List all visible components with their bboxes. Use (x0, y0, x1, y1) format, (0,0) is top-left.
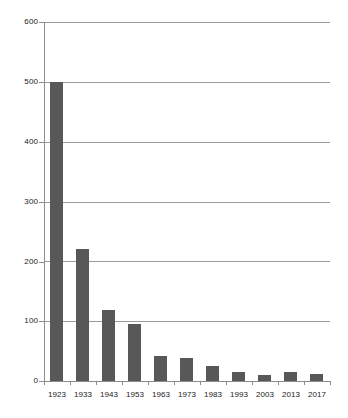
bar-chart-figure: 600 500 400 300 200 100 0 (0, 0, 348, 418)
bar-2003 (258, 375, 271, 381)
bar-1923 (50, 82, 63, 381)
y-tick-label-500: 500 (24, 78, 38, 86)
x-tick-label-1943: 1943 (96, 390, 122, 399)
x-tick-mark-9 (278, 381, 279, 385)
x-tick-mark-6 (200, 381, 201, 385)
x-tick-mark-7 (226, 381, 227, 385)
x-tick-label-1933: 1933 (70, 390, 96, 399)
y-tick-label-400: 400 (24, 138, 38, 146)
gridline-400 (44, 142, 330, 143)
x-tick-label-1953: 1953 (122, 390, 148, 399)
x-tick-label-1963: 1963 (148, 390, 174, 399)
gridline-baseline-0 (44, 381, 330, 382)
bar-1943 (102, 310, 115, 381)
x-tick-mark-5 (174, 381, 175, 385)
bar-2013 (284, 372, 297, 381)
x-tick-label-1923: 1923 (44, 390, 70, 399)
x-tick-label-2017: 2017 (304, 390, 330, 399)
x-tick-mark-4 (148, 381, 149, 385)
x-tick-label-1983: 1983 (200, 390, 226, 399)
x-tick-mark-1 (70, 381, 71, 385)
gridline-300 (44, 202, 330, 203)
bar-1953 (128, 324, 141, 381)
bar-1983 (206, 366, 219, 381)
x-tick-mark-10 (304, 381, 305, 385)
x-tick-label-1993: 1993 (226, 390, 252, 399)
x-tick-label-2003: 2003 (252, 390, 278, 399)
x-tick-mark-8 (252, 381, 253, 385)
y-tick-label-200: 200 (24, 258, 38, 266)
y-axis-tick-labels: 600 500 400 300 200 100 0 (0, 0, 38, 418)
x-tick-mark-0 (44, 381, 45, 385)
y-tick-label-600: 600 (24, 18, 38, 26)
gridline-600 (44, 22, 330, 23)
plot-area (44, 22, 330, 381)
y-tick-label-0: 0 (33, 377, 38, 385)
x-tick-label-1973: 1973 (174, 390, 200, 399)
x-tick-mark-11 (330, 381, 331, 385)
bar-1993 (232, 372, 245, 381)
bar-1963 (154, 356, 167, 381)
y-tick-label-100: 100 (24, 317, 38, 325)
bar-1933 (76, 249, 89, 381)
bar-2017 (310, 374, 323, 381)
bar-1973 (180, 358, 193, 381)
x-tick-label-2013: 2013 (278, 390, 304, 399)
x-tick-mark-3 (122, 381, 123, 385)
y-tick-label-300: 300 (24, 198, 38, 206)
gridline-500 (44, 82, 330, 83)
x-tick-mark-2 (96, 381, 97, 385)
